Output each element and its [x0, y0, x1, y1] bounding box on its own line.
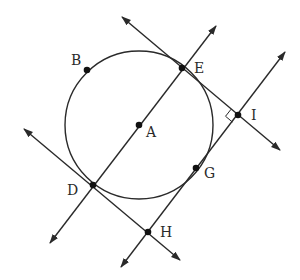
line-through-D-H — [24, 129, 180, 260]
point-A — [136, 122, 143, 129]
label-I: I — [251, 107, 257, 123]
point-B — [84, 67, 91, 74]
point-G — [193, 165, 200, 172]
lines — [24, 17, 285, 267]
labels: ABEIDGH — [67, 52, 257, 240]
label-A: A — [145, 124, 157, 140]
label-E: E — [194, 60, 204, 76]
diagram-svg: ABEIDGH — [0, 0, 300, 280]
geometry-diagram: ABEIDGH — [0, 0, 300, 280]
point-I — [235, 112, 242, 119]
label-B: B — [71, 52, 81, 68]
line-through-H-G-I — [121, 52, 285, 267]
label-D: D — [67, 182, 78, 198]
right-angle-icon — [226, 109, 233, 122]
point-H — [145, 229, 152, 236]
points — [84, 65, 242, 236]
point-E — [179, 65, 186, 72]
label-G: G — [204, 165, 215, 181]
point-D — [90, 182, 97, 189]
label-H: H — [160, 224, 172, 240]
right-angle-marker — [226, 109, 233, 122]
